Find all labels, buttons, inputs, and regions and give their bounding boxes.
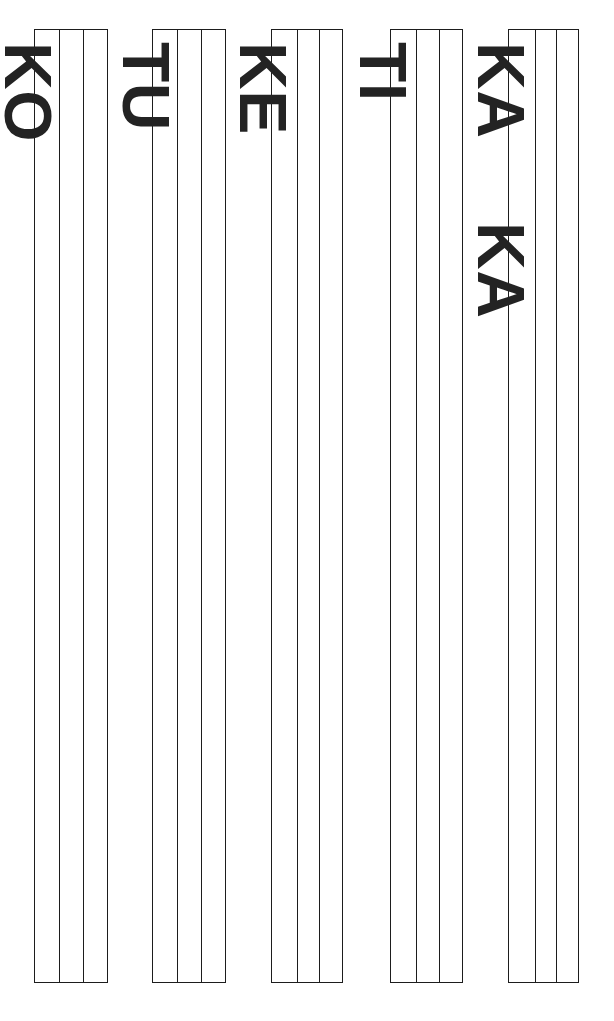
column-group-4[interactable]: TI bbox=[390, 29, 463, 983]
panel-divider-4-1 bbox=[416, 30, 417, 982]
panel-divider-4-2 bbox=[439, 30, 440, 982]
column-group-5[interactable]: KAKA bbox=[508, 29, 579, 983]
column-group-3[interactable]: KE bbox=[271, 29, 343, 983]
column-label-text: TU bbox=[113, 42, 179, 131]
panel-divider-5-2 bbox=[556, 30, 557, 982]
column-label-text: KA bbox=[468, 222, 534, 318]
panel-divider-5-1 bbox=[535, 30, 536, 982]
page-bottom-margin bbox=[0, 1011, 614, 1021]
column-group-1[interactable]: KO bbox=[34, 29, 108, 983]
panel-divider-3-2 bbox=[319, 30, 320, 982]
column-group-2[interactable]: TU bbox=[152, 29, 226, 983]
column-label-text: KE bbox=[230, 42, 296, 135]
diagram-canvas: KOTUKETIKAKA bbox=[0, 0, 614, 1021]
column-label-text: TI bbox=[350, 42, 416, 102]
column-label-text: KA bbox=[468, 42, 534, 138]
panel-divider-3-1 bbox=[297, 30, 298, 982]
panel-divider-2-1 bbox=[177, 30, 178, 982]
panel-divider-1-1 bbox=[59, 30, 60, 982]
panel-divider-2-2 bbox=[201, 30, 202, 982]
column-label-text: KO bbox=[0, 42, 61, 142]
panel-divider-1-2 bbox=[83, 30, 84, 982]
